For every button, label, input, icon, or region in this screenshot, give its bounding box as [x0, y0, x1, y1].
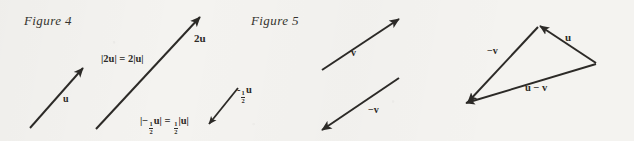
label-neg-half-u-figure4: -12u: [237, 85, 252, 104]
label-u-triangle: u: [565, 32, 571, 43]
fraction-denominator: 2: [149, 128, 153, 136]
fraction-one-half-left: 12: [149, 121, 153, 135]
label-2u-figure4: 2u: [194, 33, 206, 44]
label-magnitude-half-u-figure4: |−12u| = 12|u|: [140, 116, 189, 135]
label-u-minus-v-triangle: u − v: [525, 83, 547, 94]
label-u-figure4: u: [63, 94, 69, 104]
magnitude-half-middle-text: u| =: [154, 115, 173, 126]
magnitude-half-minus-sign: −: [142, 115, 148, 126]
label-neg-v-triangle: −v: [487, 46, 498, 56]
fraction-one-half-inline: 12: [241, 90, 245, 104]
fraction-denominator: 2: [241, 97, 245, 105]
magnitude-half-close-text: |u|: [178, 115, 188, 126]
arrow-u-figure4: [30, 68, 83, 128]
arrow-v-figure5: [322, 19, 399, 70]
arrow-neg-v-figure5: [322, 78, 399, 130]
label-neg-v-figure5: −v: [368, 105, 379, 115]
neg-half-u-minus-sign: -: [237, 84, 241, 95]
figure-4-caption: Figure 4: [24, 13, 72, 29]
neg-half-u-variable: u: [246, 84, 252, 95]
label-v-figure5: v: [351, 48, 356, 58]
figure-5-caption: Figure 5: [251, 13, 299, 29]
figure-page: Figure 4 Figure 5 u 2u |2u| = 2|u| -12u …: [0, 0, 634, 141]
label-magnitude-2u-figure4: |2u| = 2|u|: [101, 54, 144, 65]
arrow-2u-figure4: [96, 17, 200, 129]
arrow-neg-half-u-figure4: [209, 88, 238, 124]
vector-diagram-canvas: [0, 0, 634, 141]
fraction-denominator: 2: [174, 128, 178, 136]
